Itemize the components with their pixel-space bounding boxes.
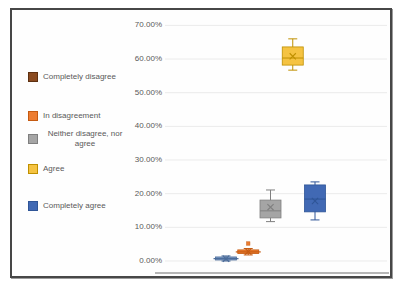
legend-label: Completely disagree [43, 72, 127, 82]
legend-label: Agree [43, 164, 127, 174]
legend-swatch [28, 72, 38, 82]
box-series-2 [260, 190, 281, 222]
legend-item: Completely disagree [28, 72, 127, 82]
box-series-1 [236, 242, 261, 255]
legend-label: Completely agree [43, 201, 127, 211]
legend-swatch [28, 111, 38, 121]
legend-item: In disagreement [28, 111, 127, 121]
legend-item: Agree [28, 164, 127, 174]
legend-label: Neither disagree, nor agree [43, 129, 127, 149]
legend-swatch [28, 164, 38, 174]
boxplot-figure: Completely disagree In disagreement Neit… [0, 0, 396, 287]
legend-label: In disagreement [43, 111, 127, 121]
legend-item: Completely agree [28, 201, 127, 211]
box-series-3 [282, 39, 303, 70]
plot-area [153, 12, 391, 278]
legend-swatch [28, 201, 38, 211]
outlier-point [247, 242, 250, 245]
legend-swatch [28, 134, 38, 144]
box-series-4 [305, 182, 326, 220]
legend-item: Neither disagree, nor agree [28, 129, 127, 149]
